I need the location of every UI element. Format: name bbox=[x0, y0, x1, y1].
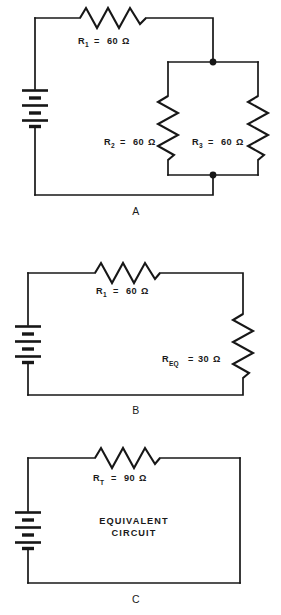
panel-b-label-r1-sub: 1 bbox=[103, 291, 107, 298]
panel-c-annotation-line1: EQUIVALENT bbox=[99, 516, 169, 526]
panel-b-letter: B bbox=[132, 404, 139, 416]
panel-b-label-req: R EQ = 30 Ω bbox=[162, 354, 221, 368]
panel-a-battery-symbol bbox=[22, 91, 48, 127]
panel-b-label-r1-unit: Ω bbox=[141, 286, 149, 296]
panel-a-label-r2-sub: 2 bbox=[111, 142, 115, 149]
panel-c-label-rt-main: R bbox=[93, 473, 100, 483]
panel-a-junction-dot-bottom bbox=[210, 172, 217, 179]
panel-a-label-r2-main: R bbox=[104, 137, 111, 147]
panel-b-label-req-eq: = bbox=[188, 354, 194, 364]
panel-b: R 1 = 60 Ω R EQ = 30 Ω B bbox=[15, 263, 253, 416]
panel-b-bottom-wire bbox=[28, 378, 243, 395]
panel-b-battery-symbol bbox=[15, 327, 41, 363]
panel-c-label-rt: R T = 90 Ω bbox=[93, 473, 147, 486]
panel-a-label-r3-sub: 3 bbox=[199, 142, 203, 149]
panel-c-label-rt-eq: = bbox=[111, 473, 117, 483]
panel-a: R 1 = 60 Ω R 2 = 60 Ω R 3 = 60 Ω A bbox=[22, 8, 268, 217]
panel-c-label-rt-sub: T bbox=[100, 479, 104, 486]
panel-c-letter: C bbox=[132, 593, 140, 605]
panel-b-label-r1-eq: = bbox=[113, 286, 119, 296]
panel-a-label-r1-eq: = bbox=[94, 36, 100, 46]
panel-b-label-r1-main: R bbox=[96, 286, 103, 296]
panel-b-label-r1-value: 60 bbox=[126, 286, 137, 296]
panel-a-label-r3-eq: = bbox=[208, 137, 214, 147]
panel-a-label-r3-main: R bbox=[192, 137, 199, 147]
circuit-diagram-svg: R 1 = 60 Ω R 2 = 60 Ω R 3 = 60 Ω A bbox=[0, 0, 281, 615]
panel-b-label-req-unit: Ω bbox=[213, 354, 221, 364]
panel-c: R T = 90 Ω EQUIVALENT CIRCUIT C bbox=[15, 448, 240, 605]
panel-a-top-right-wire bbox=[146, 18, 213, 62]
panel-a-label-r1-main: R bbox=[78, 36, 85, 46]
panel-a-label-r2-value: 60 bbox=[133, 137, 144, 147]
panel-a-label-r1: R 1 = 60 Ω bbox=[78, 36, 130, 48]
panel-c-label-rt-unit: Ω bbox=[139, 473, 147, 483]
panel-a-junction-dot-top bbox=[210, 59, 217, 66]
panel-a-resistor-r3-symbol bbox=[248, 96, 268, 160]
panel-a-label-r1-sub: 1 bbox=[85, 41, 89, 48]
panel-a-label-r3-unit: Ω bbox=[236, 137, 244, 147]
panel-a-label-r2-unit: Ω bbox=[148, 137, 156, 147]
panel-c-annotation-line2: CIRCUIT bbox=[112, 528, 157, 538]
panel-a-resistor-r2-symbol bbox=[158, 96, 178, 160]
panel-a-label-r2-eq: = bbox=[120, 137, 126, 147]
panel-b-resistor-r1-symbol bbox=[95, 263, 160, 283]
panel-c-label-rt-value: 90 bbox=[124, 473, 135, 483]
panel-a-resistor-r1-symbol bbox=[80, 8, 146, 28]
panel-b-label-req-main: R bbox=[162, 354, 169, 364]
panel-a-letter: A bbox=[132, 205, 139, 217]
panel-a-label-r3-value: 60 bbox=[221, 137, 232, 147]
panel-a-bottom-wire bbox=[35, 175, 213, 195]
panel-a-label-r1-value: 60 bbox=[107, 36, 118, 46]
panel-a-label-r1-unit: Ω bbox=[122, 36, 130, 46]
panel-c-battery-symbol bbox=[15, 513, 41, 549]
panel-c-resistor-rt-symbol bbox=[95, 448, 160, 468]
panel-a-label-r2: R 2 = 60 Ω bbox=[104, 137, 156, 149]
panel-b-label-r1: R 1 = 60 Ω bbox=[96, 286, 149, 298]
panel-b-resistor-req-symbol bbox=[233, 314, 253, 378]
panel-a-label-r3: R 3 = 60 Ω bbox=[192, 137, 244, 149]
panel-b-label-req-value: 30 bbox=[198, 354, 209, 364]
panel-b-label-req-sub: EQ bbox=[169, 360, 179, 368]
panel-b-top-right-wire bbox=[160, 273, 243, 314]
circuit-figure: R 1 = 60 Ω R 2 = 60 Ω R 3 = 60 Ω A bbox=[0, 0, 281, 615]
